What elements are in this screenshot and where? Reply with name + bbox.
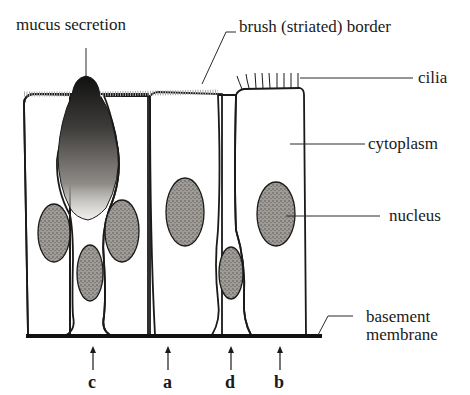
marker-letter-a: a	[163, 372, 172, 392]
leader-lines	[86, 32, 413, 335]
cell-marker-d: d	[225, 346, 235, 392]
nucleus-cell-b	[257, 182, 295, 246]
marker-letter-d: d	[225, 372, 235, 392]
label-mucus-secretion: mucus secretion	[16, 15, 126, 34]
label-basement: basement	[366, 307, 430, 326]
mucus-secretion-blob	[58, 76, 119, 220]
nucleus-cell-left	[38, 204, 70, 262]
label-membrane: membrane	[366, 325, 438, 344]
epithelium-diagram: mucus secretion brush (striated) border …	[0, 0, 470, 395]
marker-letter-c: c	[88, 372, 96, 392]
nucleus-goblet-c	[77, 245, 103, 301]
nucleus-cell-2	[105, 200, 139, 262]
cell-marker-a: a	[163, 346, 172, 392]
label-cytoplasm: cytoplasm	[368, 134, 438, 153]
label-nucleus: nucleus	[389, 206, 441, 225]
label-brush-border: brush (striated) border	[239, 17, 391, 36]
cell-layer	[24, 76, 306, 335]
marker-letter-b: b	[274, 372, 284, 392]
cilia	[237, 73, 298, 89]
nucleus-cell-d	[219, 247, 243, 299]
nucleus-cell-a	[166, 178, 204, 246]
cell-marker-b: b	[274, 346, 284, 392]
cell-marker-c: c	[88, 346, 96, 392]
basement-membrane	[26, 334, 322, 338]
label-cilia: cilia	[418, 68, 448, 87]
